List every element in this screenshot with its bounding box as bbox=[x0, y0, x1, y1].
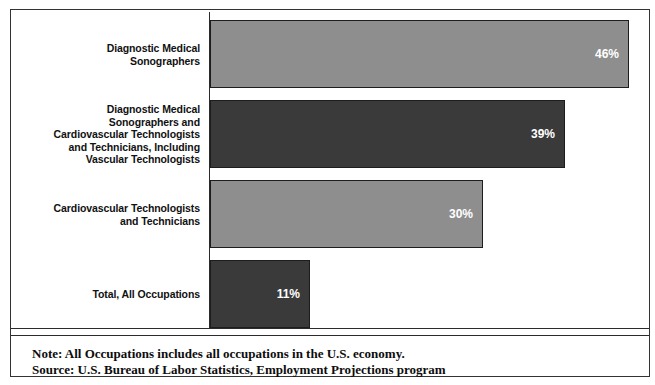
source-text: Source: U.S. Bureau of Labor Statistics,… bbox=[32, 362, 632, 378]
bar-category-label: Diagnostic Medical Sonographers bbox=[0, 42, 200, 67]
bar-value-label: 46% bbox=[595, 47, 619, 61]
bar-category-label: Cardiovascular Technologists and Technic… bbox=[0, 202, 200, 227]
plot-area: Diagnostic Medical Sonographers 46% Diag… bbox=[11, 10, 649, 329]
bar-total-all-occupations: 11% bbox=[210, 260, 310, 328]
bar-chart-figure: Diagnostic Medical Sonographers 46% Diag… bbox=[0, 0, 655, 385]
bar-dms-and-cardiovascular-technologists: 39% bbox=[210, 100, 565, 168]
bar-cardiovascular-technologists-and-technicians: 30% bbox=[210, 180, 483, 248]
bar-row: Cardiovascular Technologists and Technic… bbox=[11, 180, 649, 248]
bar-category-label: Diagnostic Medical Sonographers and Card… bbox=[0, 103, 200, 166]
bar-row: Total, All Occupations 11% bbox=[11, 260, 649, 328]
bar-row: Diagnostic Medical Sonographers 46% bbox=[11, 20, 649, 88]
bar-row: Diagnostic Medical Sonographers and Card… bbox=[11, 100, 649, 168]
bar-diagnostic-medical-sonographers: 46% bbox=[210, 20, 629, 88]
chart-footnotes: Note: All Occupations includes all occup… bbox=[32, 346, 632, 378]
value-axis-baseline bbox=[11, 328, 649, 329]
bar-value-label: 39% bbox=[531, 127, 555, 141]
notes-separator-rule bbox=[11, 335, 649, 336]
bar-value-label: 11% bbox=[277, 287, 300, 301]
bar-value-label: 30% bbox=[449, 207, 473, 221]
bar-category-label: Total, All Occupations bbox=[0, 288, 200, 301]
note-text: Note: All Occupations includes all occup… bbox=[32, 346, 632, 362]
